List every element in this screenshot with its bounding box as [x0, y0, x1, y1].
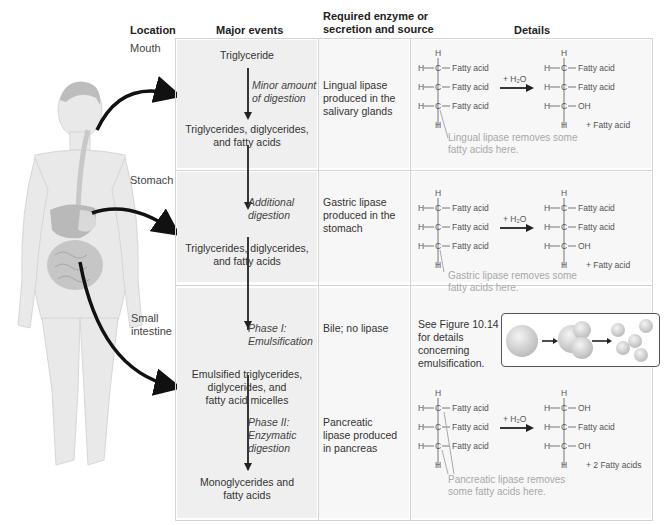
- enzyme-gastric-lipase: Gastric lipase produced in the stomach: [323, 196, 395, 235]
- location-arrows: [0, 0, 200, 525]
- grid-line: [410, 38, 411, 520]
- location-stomach: Stomach: [130, 174, 173, 187]
- event-phase2-enzymatic-digestion: Phase II: Enzymatic digestion: [248, 416, 296, 455]
- header-location: Location: [130, 24, 176, 37]
- event-result-stomach: Triglycerides, diglycerides, and fatty a…: [177, 242, 317, 268]
- stomach-arrow: [92, 209, 172, 230]
- location-mouth: Mouth: [130, 42, 161, 55]
- header-details: Details: [514, 24, 550, 37]
- mouth-arrow: [97, 91, 172, 130]
- header-major-events: Major events: [216, 24, 283, 37]
- lingual-lipase-note: Lingual lipase removes some fatty acids …: [448, 132, 578, 156]
- grid-line: [175, 38, 176, 520]
- grid-line: [652, 38, 653, 520]
- event-result-monoglycerides: Monoglycerides and fatty acids: [177, 476, 317, 502]
- event-triglyceride: Triglyceride: [177, 49, 317, 62]
- pancreatic-lipase-note: Pancreatic lipase removes some fatty aci…: [448, 474, 565, 498]
- event-step-minor-digestion: Minor amount of digestion: [252, 79, 316, 105]
- details-small-intestine-reaction: H H C Fatty acid H C Fatty acid H C Fatt…: [418, 388, 650, 518]
- emulsification-illustration-box: [501, 313, 660, 367]
- enzyme-bile: Bile; no lipase: [323, 322, 388, 335]
- emulsification-droplets-illustration: [502, 314, 659, 366]
- grid-line: [318, 38, 319, 520]
- enzyme-lingual-lipase: Lingual lipase produced in the salivary …: [323, 79, 395, 118]
- enzyme-pancreatic-lipase: Pancreatic lipase produced in pancreas: [323, 416, 397, 455]
- details-mouth-reaction: H H C Fatty acid H C Fatty acid H C Fatt…: [418, 48, 650, 168]
- event-emulsified-result: Emulsified triglycerides, diglycerides, …: [177, 368, 317, 407]
- event-step-additional-digestion: Additional digestion: [248, 196, 294, 222]
- header-enzyme-line1: Required enzyme or: [323, 10, 428, 23]
- figure-reference: See Figure 10.14 for details concerning …: [418, 318, 499, 370]
- event-result-mouth: Triglycerides, diglycerides, and fatty a…: [177, 123, 317, 149]
- location-small-intestine: Small intestine: [131, 312, 172, 338]
- event-phase1-emulsification: Phase I: Emulsification: [248, 322, 313, 348]
- details-stomach-reaction: H H C Fatty acid H C Fatty acid H C Fatt…: [418, 188, 650, 288]
- header-enzyme-line2: secretion and source: [323, 23, 434, 36]
- grid-line: [175, 520, 653, 521]
- grid-line: [175, 38, 653, 39]
- gastric-lipase-note: Gastric lipase removes some fatty acids …: [448, 270, 577, 294]
